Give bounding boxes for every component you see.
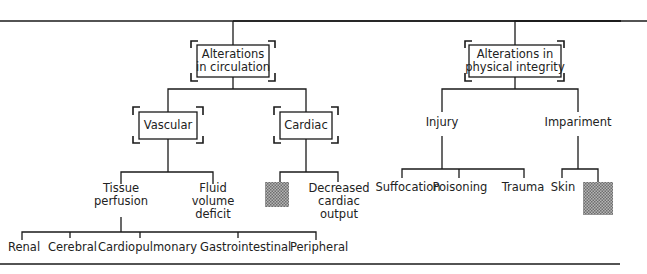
node-label-line: output	[320, 207, 358, 221]
node-tissue-perfusion: Tissue perfusion	[94, 181, 148, 208]
edge-injury-children	[402, 136, 524, 178]
node-impairment: Impariment	[545, 115, 612, 129]
node-alterations-in-circulation: Alterations in circulation	[191, 41, 275, 81]
node-injury: Injury	[426, 115, 459, 129]
node-skin: Skin	[551, 180, 575, 194]
node-renal: Renal	[8, 240, 40, 254]
edge-circulation-children	[168, 77, 306, 112]
node-label-line: perfusion	[94, 194, 148, 208]
edge-physical-children	[442, 77, 578, 112]
edge-impairment-children	[562, 136, 598, 182]
shaded-blank-node-cardiac	[265, 182, 289, 207]
node-decreased-cardiac-output: Decreased cardiac output	[308, 181, 369, 221]
node-label-line: physical integrity	[465, 60, 565, 74]
node-cardiopulmonary: Cardiopulmonary	[98, 240, 197, 254]
node-label-line: in circulation	[196, 60, 270, 74]
node-label-line: Vascular	[144, 118, 193, 132]
node-label-line: Alterations in	[477, 47, 554, 61]
node-label-line: deficit	[195, 207, 231, 221]
node-alterations-in-physical-integrity: Alterations in physical integrity	[465, 41, 565, 81]
edge-tissue-children	[22, 217, 316, 240]
edge-cardiac-children	[280, 139, 338, 182]
node-label-line: Cardiac	[284, 118, 327, 132]
node-label-line: Alterations	[202, 47, 264, 61]
node-label-line: Tissue	[102, 181, 139, 195]
node-label-line: volume	[192, 194, 235, 208]
node-label-line: cardiac	[318, 194, 360, 208]
node-trauma: Trauma	[501, 180, 545, 194]
edge-vascular-children	[121, 139, 213, 184]
node-label-line: Fluid	[199, 181, 227, 195]
node-peripheral: Peripheral	[290, 240, 348, 254]
node-suffocation: Suffocation	[376, 180, 441, 194]
node-fluid-volume-deficit: Fluid volume deficit	[192, 181, 235, 221]
node-gastrointestinal: Gastrointestinal	[200, 240, 291, 254]
node-vascular: Vascular	[133, 107, 203, 143]
edge-root-physical	[515, 21, 621, 45]
node-poisoning: Poisoning	[433, 180, 488, 194]
shaded-blank-node-impairment	[583, 182, 613, 215]
node-label-line: Decreased	[308, 181, 369, 195]
node-cerebral: Cerebral	[48, 240, 97, 254]
node-cardiac: Cardiac	[274, 107, 338, 143]
nursing-diagnosis-tree: Alterations in circulation Alterations i…	[0, 0, 647, 274]
